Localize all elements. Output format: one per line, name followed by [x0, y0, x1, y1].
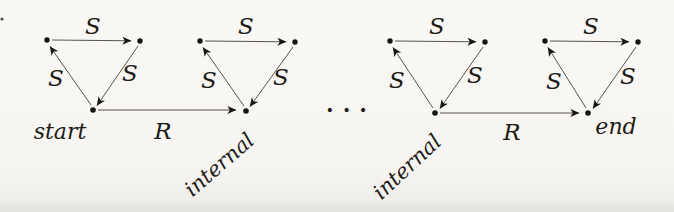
- triangle-start: S S S start: [34, 13, 143, 144]
- node-top-left: [542, 38, 547, 43]
- edge-s-top: [52, 40, 131, 41]
- node-top-right: [635, 39, 640, 44]
- edge-label-s: S: [85, 13, 101, 39]
- triangle-internal-2: S S S internal: [368, 13, 487, 204]
- edge-label-r: R: [153, 118, 171, 144]
- triangle-end: S S S end: [542, 13, 640, 139]
- edge-label-s: S: [620, 63, 636, 89]
- node-top-right: [292, 39, 297, 44]
- edge-label-r: R: [502, 119, 520, 145]
- edge-label-s: S: [429, 13, 445, 39]
- node-label-internal: internal: [180, 128, 259, 201]
- scan-artifact: [0, 17, 3, 20]
- ellipsis: ...: [326, 91, 376, 117]
- edge-label-s: S: [238, 13, 254, 39]
- edge-label-s: S: [583, 13, 599, 39]
- node-internal: [243, 108, 249, 114]
- diagram-canvas: S S S start R S S S internal ...: [0, 0, 674, 212]
- node-top-left: [387, 38, 392, 43]
- node-top-left: [44, 37, 49, 42]
- node-top-right: [137, 38, 142, 43]
- node-top-right: [482, 39, 487, 44]
- state-graph-diagram: S S S start R S S S internal ...: [0, 0, 674, 212]
- edge-s-top: [205, 41, 286, 42]
- edge-label-s: S: [122, 60, 138, 86]
- node-label-internal: internal: [368, 129, 446, 204]
- node-end: [585, 110, 591, 116]
- edge-s-top: [395, 41, 476, 42]
- edge-s-top: [550, 41, 629, 42]
- relation-edge-2: R: [440, 113, 579, 145]
- edge-label-s: S: [467, 62, 483, 88]
- node-top-left: [197, 38, 202, 43]
- triangle-internal-1: S S S internal: [180, 13, 298, 201]
- edge-label-s: S: [201, 67, 217, 93]
- node-internal: [432, 110, 438, 116]
- edge-label-s: S: [273, 64, 289, 90]
- relation-edge-1: R: [98, 110, 236, 144]
- edge-label-s: S: [389, 67, 405, 93]
- edge-label-s: S: [546, 68, 562, 94]
- edge-label-s: S: [48, 65, 64, 91]
- node-start: [90, 107, 96, 113]
- node-label-start: start: [34, 119, 87, 144]
- node-label-end: end: [595, 114, 636, 139]
